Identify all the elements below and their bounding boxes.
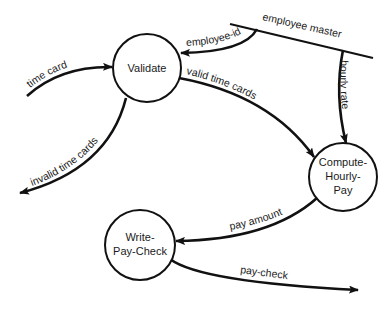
process-label-line-1: Compute- [319, 156, 368, 168]
process-compute-hourly-pay[interactable]: Compute- Hourly- Pay [309, 143, 377, 211]
flow-pay-amount[interactable]: pay amount [176, 198, 317, 241]
flow-pay-check[interactable]: pay-check [170, 259, 358, 290]
flow-label-pay-amount: pay amount [228, 205, 284, 232]
flow-invalid-time-cards[interactable]: invalid time cards [20, 98, 126, 193]
data-flow-diagram: employee master time card employee-id in… [0, 0, 392, 311]
flow-label-hourly-rate: hourly rate [338, 60, 352, 110]
flow-label-employee-id: employee-id [186, 25, 243, 48]
flow-hourly-rate[interactable]: hourly rate [338, 50, 352, 143]
store-employee-master[interactable]: employee master [230, 10, 373, 58]
flow-valid-time-cards[interactable]: valid time cards [179, 64, 314, 157]
flow-employee-id[interactable]: employee-id [181, 25, 257, 53]
process-label-line-2: Pay-Check [113, 245, 167, 257]
process-write-pay-check[interactable]: Write- Pay-Check [105, 210, 175, 280]
flow-label-pay-check: pay-check [240, 263, 290, 281]
process-label-validate: Validate [128, 62, 167, 74]
process-label-line-3: Pay [334, 184, 353, 196]
process-validate[interactable]: Validate [113, 34, 181, 102]
flow-label-invalid-time-cards: invalid time cards [28, 134, 99, 188]
flow-time-card[interactable]: time card [24, 58, 112, 96]
process-label-line-1: Write- [125, 231, 154, 243]
process-label-line-2: Hourly- [325, 170, 361, 182]
